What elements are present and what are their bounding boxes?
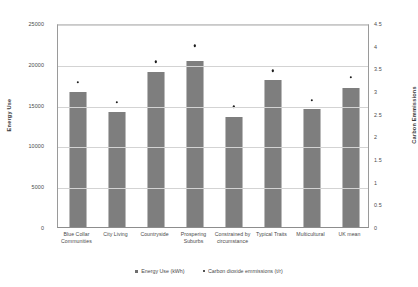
x-axis-label: Typical Traits	[252, 231, 291, 238]
x-axis-label: Constrained by circumstance	[213, 231, 252, 244]
bar[interactable]	[342, 88, 359, 227]
bar[interactable]	[147, 72, 164, 227]
chart-legend: Energy Use (kWh)Carbon dioxide emmission…	[0, 268, 418, 274]
y-axis-left-title: Energy Use	[6, 85, 12, 145]
x-axis-label: Prospering Suburbs	[174, 231, 213, 244]
data-point-marker[interactable]	[76, 81, 78, 83]
bars-layer	[58, 25, 368, 227]
y-axis-left-tick-label: 5000	[4, 184, 44, 190]
bar[interactable]	[303, 109, 320, 227]
x-axis-label: Countryside	[135, 231, 174, 238]
legend-item[interactable]: Energy Use (kWh)	[135, 268, 184, 274]
bar[interactable]	[69, 92, 86, 227]
bar[interactable]	[225, 117, 242, 227]
bar-slot	[331, 25, 370, 227]
bar[interactable]	[108, 112, 125, 227]
y-axis-right-tick-label: 0.5	[374, 202, 414, 208]
y-axis-left-tick-label: 0	[4, 225, 44, 231]
data-point-marker[interactable]	[193, 44, 195, 46]
energy-carbon-chart: Energy Use Carbon Emmissions 05000100001…	[0, 0, 418, 287]
bar-slot	[214, 25, 253, 227]
y-axis-left-tick-label: 25000	[4, 21, 44, 27]
y-axis-right-tick-label: 4.5	[374, 21, 414, 27]
legend-item[interactable]: Carbon dioxide emmissions (t/r)	[203, 268, 283, 274]
bar-slot	[136, 25, 175, 227]
gridline	[58, 66, 368, 67]
bar-slot	[58, 25, 97, 227]
data-point-marker[interactable]	[349, 76, 351, 78]
data-point-marker[interactable]	[115, 101, 117, 103]
legend-square-icon	[135, 270, 138, 273]
y-axis-right-tick-label: 3.5	[374, 66, 414, 72]
data-point-marker[interactable]	[271, 69, 273, 71]
y-axis-right-tick-label: 0	[374, 225, 414, 231]
gridline	[58, 25, 368, 26]
bar-slot	[292, 25, 331, 227]
y-axis-left-tick-label: 10000	[4, 143, 44, 149]
legend-label: Carbon dioxide emmissions (t/r)	[208, 268, 283, 274]
y-axis-left-tick-label: 15000	[4, 103, 44, 109]
x-axis-label: Blue Collar Communities	[57, 231, 96, 244]
bar-slot	[97, 25, 136, 227]
bar-slot	[253, 25, 292, 227]
y-axis-right-tick-label: 1	[374, 180, 414, 186]
gridline	[58, 107, 368, 108]
y-axis-right-tick-label: 1.5	[374, 157, 414, 163]
y-axis-right-tick-label: 4	[374, 44, 414, 50]
bar[interactable]	[186, 61, 203, 227]
x-axis-label: Multicultural	[291, 231, 330, 238]
legend-dot-icon	[203, 270, 205, 272]
x-axis-label: City Living	[96, 231, 135, 238]
y-axis-right-tick-label: 2	[374, 134, 414, 140]
x-axis-label: UK mean	[330, 231, 369, 238]
data-point-marker[interactable]	[154, 60, 156, 62]
bar-slot	[175, 25, 214, 227]
gridline	[58, 188, 368, 189]
plot-area	[57, 24, 369, 228]
gridline	[58, 147, 368, 148]
y-axis-right-tick-label: 2.5	[374, 112, 414, 118]
legend-label: Energy Use (kWh)	[141, 268, 184, 274]
bar[interactable]	[264, 80, 281, 227]
y-axis-right-tick-label: 3	[374, 89, 414, 95]
y-axis-left-tick-label: 20000	[4, 62, 44, 68]
data-point-marker[interactable]	[310, 99, 312, 101]
